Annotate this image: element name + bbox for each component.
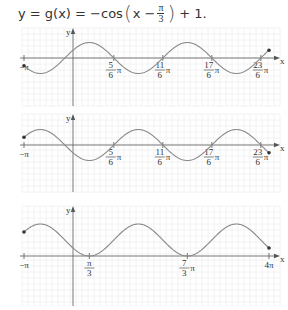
equation-frac-num: π [157, 3, 164, 14]
y-axis-label: y [66, 205, 71, 215]
equation-frac-den: 3 [158, 14, 163, 24]
y-axis-arrow-icon [71, 114, 75, 120]
function-equation: y = g(x) = −cos ( x − π 3 ) + 1. [18, 2, 207, 24]
equation-rhs: + 1. [179, 6, 206, 21]
x-tick-pi: π [166, 65, 171, 75]
y-axis-label: y [66, 27, 71, 37]
right-endpoint-dot [267, 151, 271, 155]
x-tick-denominator: 3 [87, 268, 92, 278]
x-tick-denominator: 6 [256, 70, 261, 80]
x-tick-numerator: π [87, 258, 92, 268]
right-endpoint-dot [267, 246, 271, 250]
x-axis-label: x [280, 254, 285, 264]
x-axis-label: x [280, 143, 285, 153]
equation-fraction: π 3 [157, 3, 164, 24]
equation-lhs: y = g(x) = −cos [18, 6, 123, 21]
x-tick-numerator: 23 [253, 147, 263, 157]
x-tick-pi: π [190, 263, 195, 273]
x-tick-pi: π [117, 152, 122, 162]
x-tick-numerator: 5 [109, 147, 114, 157]
y-axis-label: y [66, 113, 71, 123]
equation-inner: x − [133, 6, 156, 21]
graph-1: xy−π56π116π176π236π [0, 26, 288, 111]
x-tick-label: −π [19, 149, 29, 159]
x-tick-numerator: 23 [253, 60, 263, 70]
x-tick-numerator: 17 [204, 147, 214, 157]
x-tick-pi: π [117, 65, 122, 75]
x-tick-denominator: 6 [109, 157, 114, 167]
y-axis-arrow-icon [71, 28, 75, 34]
y-axis-arrow-icon [71, 206, 75, 212]
right-endpoint-dot [267, 48, 271, 52]
x-tick-pi: π [215, 152, 220, 162]
grid [22, 28, 280, 106]
graph-3: xy−ππ373π4π [0, 200, 288, 310]
x-tick-denominator: 6 [158, 70, 163, 80]
x-tick-denominator: 6 [256, 157, 261, 167]
x-tick-numerator: 17 [204, 60, 214, 70]
x-tick-denominator: 6 [207, 157, 212, 167]
x-tick-numerator: 7 [182, 258, 187, 268]
left-endpoint-dot [22, 230, 26, 234]
x-tick-label: −π [19, 260, 29, 270]
x-tick-denominator: 6 [207, 70, 212, 80]
x-tick-pi: π [264, 65, 269, 75]
equation-close-paren: ) [167, 1, 175, 25]
x-tick-denominator: 6 [158, 157, 163, 167]
x-tick-numerator: 5 [109, 60, 114, 70]
x-axis-label: x [280, 56, 285, 66]
left-endpoint-dot [22, 64, 26, 68]
left-endpoint-dot [22, 135, 26, 139]
x-tick-numerator: 11 [155, 147, 164, 157]
x-tick-denominator: 6 [109, 70, 114, 80]
x-tick-label: 4π [264, 260, 274, 270]
equation-open-paren: ( [124, 1, 132, 25]
x-tick-pi: π [166, 152, 171, 162]
x-tick-pi: π [215, 65, 220, 75]
grid [22, 114, 280, 192]
x-tick-denominator: 3 [182, 268, 187, 278]
graph-2: xy−π56π116π176π236π [0, 112, 288, 197]
